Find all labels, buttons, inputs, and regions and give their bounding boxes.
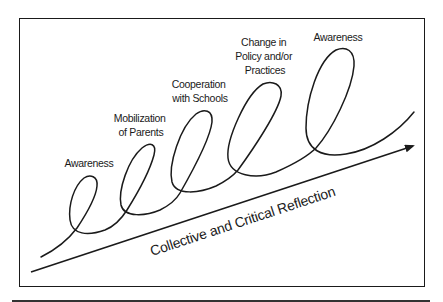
spiral-diagram: Awareness Mobilization of Parents Cooper… (0, 0, 443, 302)
stage-label-awareness-2: Awareness (313, 31, 362, 43)
stage-label-cooperation: Cooperation with Schools (171, 78, 228, 104)
stage-label-mobilization: Mobilization of Parents (114, 112, 168, 138)
reflection-axis-label: Collective and Critical Reflection (148, 183, 337, 259)
stage-label-awareness-1: Awareness (64, 157, 113, 169)
stage-label-change-policy: Change in Policy and/or Practices (235, 36, 294, 76)
